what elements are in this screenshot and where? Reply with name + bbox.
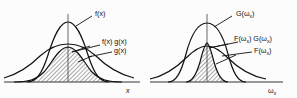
label-F-G-product-omega: F(ωx) G(ωx) [234,34,272,44]
label-g-of-x: g(x) [114,46,126,55]
label-F-main: F(ω [254,46,267,55]
label-F-tail: ) [269,46,271,55]
figure-container: f(x) f(x) g(x) g(x) x G(ωx) F(ωx) G(ωx) [0,0,297,98]
label-FG-mid: ) G(ω [249,34,267,43]
figure-svg: f(x) f(x) g(x) g(x) x G(ωx) F(ωx) G(ωx) [0,0,297,98]
label-G-of-omega-x: G(ωx) [236,9,255,19]
label-FG-tail: ) [269,34,271,43]
label-FG-main: F(ω [234,34,247,43]
label-F-of-omega-x: F(ωx) [254,46,271,56]
label-G-main: G(ω [236,9,250,18]
label-f-of-x: f(x) [95,9,105,18]
label-f-g-product: f(x) g(x) [102,37,127,46]
axis-label-x: x [125,86,130,95]
label-G-tail: ) [252,9,254,18]
